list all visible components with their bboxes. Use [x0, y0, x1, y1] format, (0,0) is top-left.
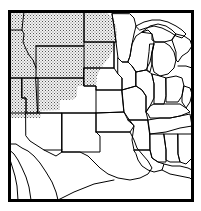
stipple-notch-unshaded: [77, 86, 96, 104]
map-figure: Map of the central and western United St…: [0, 0, 201, 211]
map-canvas: [0, 0, 201, 211]
